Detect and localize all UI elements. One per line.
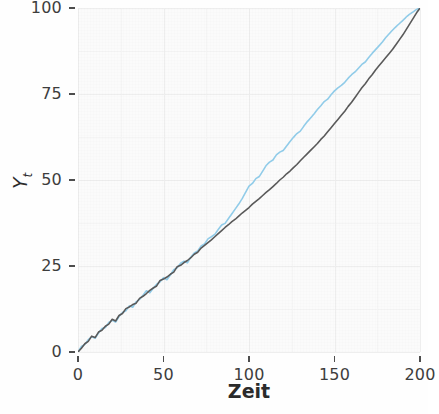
y-tick-mark xyxy=(69,7,75,9)
y-tick-label: 0 xyxy=(0,342,62,361)
line-series-blue xyxy=(78,8,420,352)
x-tick-mark xyxy=(248,356,250,362)
y-tick-mark xyxy=(69,351,75,353)
x-tick-mark xyxy=(163,356,165,362)
plot-lines xyxy=(78,8,420,352)
x-tick-mark xyxy=(77,356,79,362)
y-tick-label: 100 xyxy=(0,0,62,17)
line-series-dark xyxy=(78,8,420,352)
y-axis-label-base: Y xyxy=(9,177,31,189)
x-tick-mark xyxy=(419,356,421,362)
y-axis-label-subscript: t xyxy=(21,173,35,178)
y-tick-mark xyxy=(69,265,75,267)
x-tick-mark xyxy=(334,356,336,362)
y-tick-mark xyxy=(69,179,75,181)
plot-panel xyxy=(78,8,420,352)
y-tick-label: 75 xyxy=(0,84,62,103)
x-axis-label: Zeit xyxy=(78,380,420,402)
y-axis-label: Yt xyxy=(9,161,35,201)
gridline xyxy=(78,352,420,353)
y-tick-mark xyxy=(69,93,75,95)
gridline xyxy=(420,8,421,352)
y-tick-label: 25 xyxy=(0,256,62,275)
